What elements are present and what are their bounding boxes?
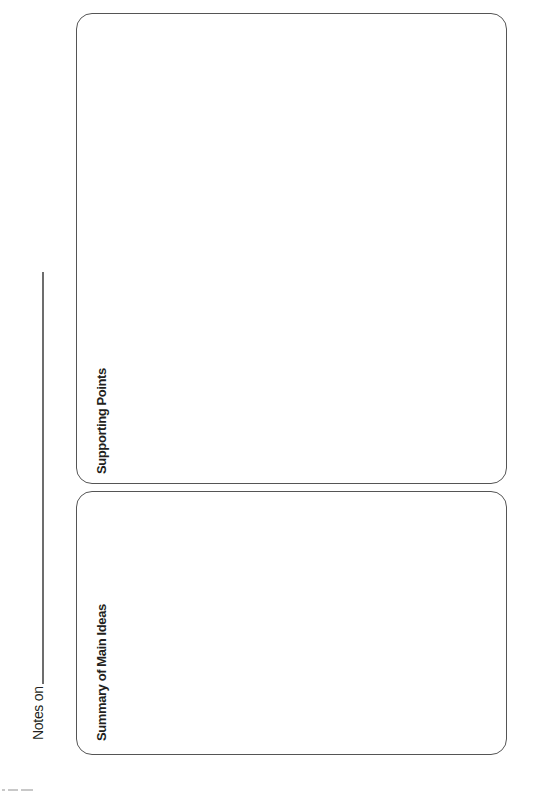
notes-on-label: Notes on — [30, 686, 46, 740]
supporting-points-heading: Supporting Points — [94, 368, 109, 474]
summary-main-ideas-box[interactable] — [76, 491, 507, 755]
footer-cutoff-fragment — [2, 789, 38, 792]
summary-main-ideas-heading: Summary of Main Ideas — [94, 604, 109, 741]
notes-topic-fill-line[interactable] — [42, 272, 44, 684]
notes-worksheet-page: Notes on Supporting Points Summary of Ma… — [0, 0, 534, 794]
supporting-points-box[interactable] — [76, 13, 507, 484]
